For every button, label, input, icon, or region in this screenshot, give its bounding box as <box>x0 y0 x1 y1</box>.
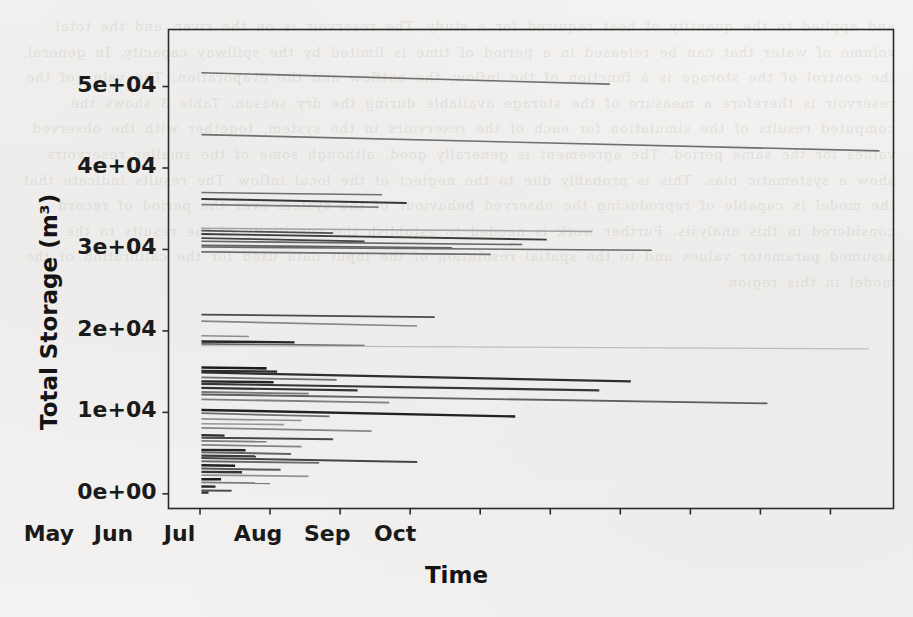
series-line <box>201 413 329 416</box>
x-tick-label: Jun <box>94 521 134 546</box>
y-tick-label: 4e+04 <box>77 153 156 178</box>
x-tick-label: May <box>24 521 74 546</box>
x-tick-label: Sep <box>304 521 351 546</box>
x-tick-label: Aug <box>234 521 282 546</box>
series-line <box>201 192 382 194</box>
series-line <box>201 424 284 425</box>
axes-frame <box>169 30 894 509</box>
series-line <box>201 419 301 421</box>
series-line <box>201 321 417 326</box>
series-line <box>201 475 308 476</box>
series-line <box>201 199 406 203</box>
series-line <box>201 438 333 440</box>
series-line <box>201 135 879 151</box>
x-tick-label: Jul <box>164 521 195 546</box>
series-line <box>201 252 490 254</box>
y-tick-label: 5e+04 <box>77 72 156 97</box>
series-line <box>201 469 280 470</box>
series-line <box>201 205 378 207</box>
series-line <box>201 73 609 84</box>
series-line <box>201 482 270 483</box>
series-line <box>201 410 515 417</box>
series-line <box>201 371 277 372</box>
series-line <box>201 461 319 463</box>
y-tick-label: 1e+04 <box>77 397 156 422</box>
x-tick-label: Oct <box>374 521 416 546</box>
series-line <box>201 346 869 349</box>
series-line <box>201 394 767 403</box>
series-line <box>201 231 333 233</box>
data-series-group <box>201 73 879 493</box>
series-line <box>201 381 273 382</box>
series-line <box>201 428 371 431</box>
series-line <box>201 372 630 381</box>
series-line <box>201 399 389 402</box>
chart-canvas: 0e+001e+042e+043e+044e+045e+04JanFebMarA… <box>0 0 913 617</box>
series-line <box>201 392 308 394</box>
series-line <box>201 368 266 369</box>
y-tick-label: 0e+00 <box>77 479 156 504</box>
y-tick-label: 3e+04 <box>77 234 156 259</box>
series-line <box>201 452 291 454</box>
series-line <box>201 388 357 390</box>
series-line <box>201 315 434 317</box>
series-line <box>201 445 301 447</box>
x-axis-title: Time <box>0 562 913 588</box>
series-line <box>201 441 266 442</box>
y-tick-label: 2e+04 <box>77 316 156 341</box>
y-axis-title: Total Storage (m³) <box>36 194 62 430</box>
series-line <box>201 456 256 457</box>
series-line <box>201 336 249 337</box>
series-line <box>201 377 336 379</box>
series-line <box>201 342 294 343</box>
